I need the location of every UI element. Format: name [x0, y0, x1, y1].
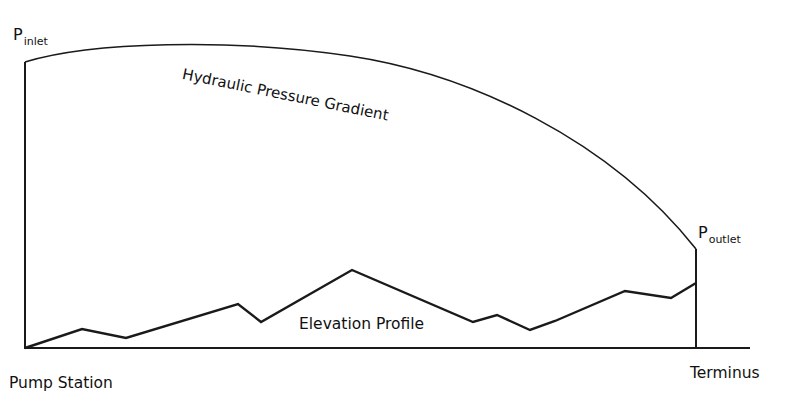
inlet-pressure-subscript: inlet [24, 35, 48, 48]
elevation-profile-label: Elevation Profile [299, 317, 424, 333]
hydraulic-pressure-gradient-curve [25, 45, 696, 249]
terminus-label: Terminus [690, 366, 760, 382]
outlet-pressure-subscript: outlet [709, 233, 741, 246]
pump-station-label: Pump Station [9, 376, 113, 392]
outlet-pressure-label: Poutlet [698, 225, 741, 241]
inlet-pressure-symbol: P [13, 25, 23, 44]
inlet-pressure-label: Pinlet [13, 27, 48, 43]
pressure-elevation-diagram [0, 0, 791, 412]
outlet-pressure-symbol: P [698, 223, 708, 242]
elevation-profile-line [25, 270, 696, 348]
